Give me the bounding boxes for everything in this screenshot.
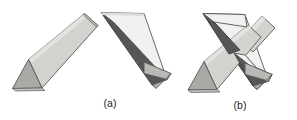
caption-b: (b) xyxy=(196,99,284,111)
group-b-interlocked-prisms xyxy=(188,14,275,93)
prism-b-up-bottom-band xyxy=(188,90,220,93)
prism-a-left-top-face xyxy=(29,14,99,89)
group-a-separate-prisms xyxy=(13,13,172,92)
prism-a-left-bottom-band xyxy=(13,88,46,91)
caption-a: (a) xyxy=(0,97,220,109)
figure-container: (a) (b) xyxy=(0,0,297,120)
prism-a-right xyxy=(101,13,171,89)
prism-a-left xyxy=(13,14,99,92)
